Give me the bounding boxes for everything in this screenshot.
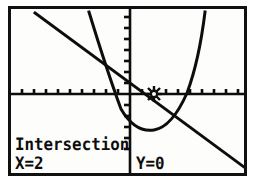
y-value-readout: Y=0 — [136, 156, 165, 173]
intersection-operation-label: Intersection — [15, 137, 129, 154]
calculator-screenshot: Intersection X=2 Y=0 — [0, 0, 255, 182]
calculator-screen: Intersection X=2 Y=0 — [8, 6, 247, 176]
intersection-point — [151, 91, 157, 97]
x-value-readout: X=2 — [15, 156, 44, 173]
x-axis — [11, 89, 244, 94]
parabola-curve — [89, 12, 205, 130]
